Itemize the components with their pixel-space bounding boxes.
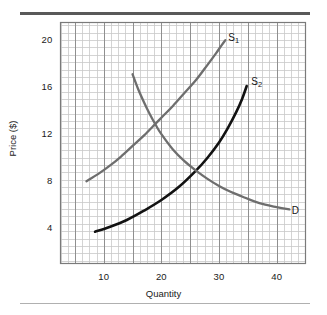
x-axis-title: Quantity (0, 288, 327, 299)
y-tick-label-8: 8 (29, 175, 53, 186)
chart-canvas (0, 0, 327, 315)
y-tick-label-12: 12 (29, 128, 53, 139)
chart-svg (0, 0, 327, 315)
y-tick-label-16: 16 (29, 81, 53, 92)
curve-label-s2: S2 (251, 76, 262, 87)
y-tick-label-20: 20 (29, 34, 53, 45)
curve-label-subscript: 2 (258, 80, 262, 89)
curve-label-text: S (228, 32, 235, 43)
curve-label-d: D (292, 205, 299, 216)
curve-label-subscript: 1 (235, 36, 239, 45)
x-tick-label-10: 10 (92, 271, 116, 282)
y-axis-title: Price ($) (7, 104, 18, 174)
curve-label-text: D (292, 205, 299, 216)
x-tick-label-40: 40 (265, 271, 289, 282)
x-tick-label-20: 20 (149, 271, 173, 282)
x-tick-label-30: 30 (207, 271, 231, 282)
curve-label-text: S (251, 76, 258, 87)
y-tick-label-4: 4 (29, 222, 53, 233)
supply-demand-figure: 4812162010203040 Quantity Price ($) S1S2… (0, 0, 327, 315)
curve-label-s1: S1 (228, 32, 239, 43)
